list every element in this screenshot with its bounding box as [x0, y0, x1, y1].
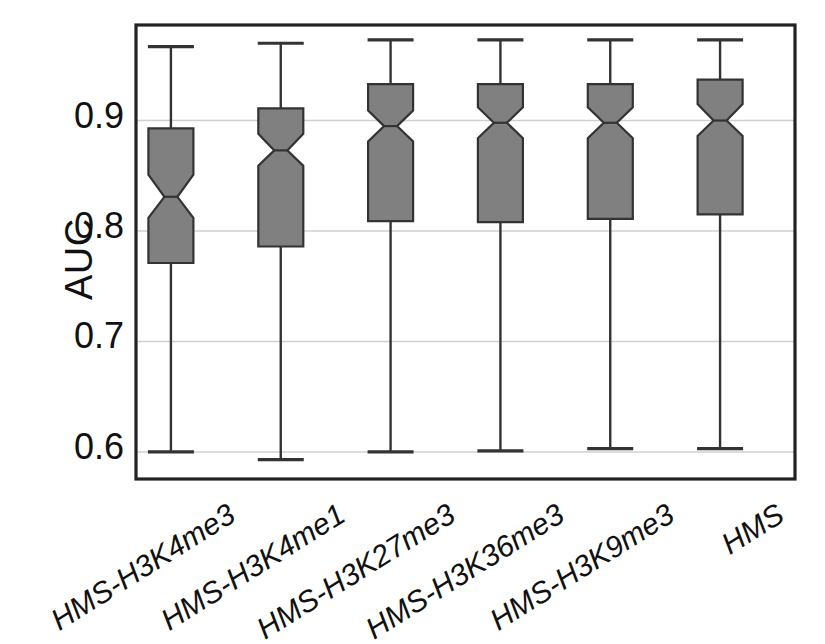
y-tick-0.6: 0.6 [74, 426, 124, 468]
box-notched [478, 84, 523, 222]
box-notched [698, 80, 743, 215]
box-notched [258, 108, 303, 246]
box-notched [368, 84, 413, 221]
y-tick-0.7: 0.7 [74, 315, 124, 357]
y-axis-label: AUC [58, 218, 101, 300]
box-notched [588, 84, 633, 219]
y-tick-0.9: 0.9 [74, 95, 124, 137]
